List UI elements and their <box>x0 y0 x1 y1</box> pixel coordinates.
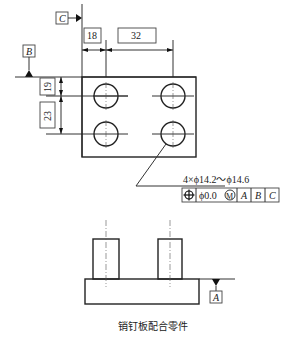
datum-c-marker: C <box>56 12 82 24</box>
datum-a-label: A <box>212 292 220 303</box>
tolerance-value: ϕ0.0 <box>199 190 217 201</box>
hole-callout: 4×ϕ14.2～ϕ14.6 <box>183 174 249 185</box>
hole-top-right <box>152 82 194 110</box>
figure-caption: 销钉板配合零件 <box>118 320 188 332</box>
dimension-32: 32 <box>106 28 173 52</box>
svg-text:M: M <box>226 192 233 201</box>
fcf-datum-c: C <box>269 190 276 201</box>
svg-text:32: 32 <box>131 30 141 41</box>
datum-b-label: B <box>26 46 32 57</box>
datum-a-marker: A <box>210 279 222 303</box>
fcf-datum-a: A <box>240 190 248 201</box>
svg-text:19: 19 <box>42 82 53 92</box>
base-plate <box>85 279 199 304</box>
dimension-19: 19 <box>40 77 63 96</box>
engineering-drawing: C B 18 32 19 23 <box>0 0 292 341</box>
dimension-18: 18 <box>82 28 106 52</box>
feature-control-frame: ϕ0.0 M A B C <box>182 188 279 202</box>
dimension-23: 23 <box>40 96 63 134</box>
hole-top-left <box>93 82 128 110</box>
svg-text:23: 23 <box>42 111 53 121</box>
datum-c-label: C <box>59 13 66 24</box>
datum-b-marker: B <box>23 45 35 77</box>
hole-bottom-right <box>152 120 194 148</box>
fcf-datum-b: B <box>255 190 261 201</box>
svg-text:18: 18 <box>87 30 97 41</box>
